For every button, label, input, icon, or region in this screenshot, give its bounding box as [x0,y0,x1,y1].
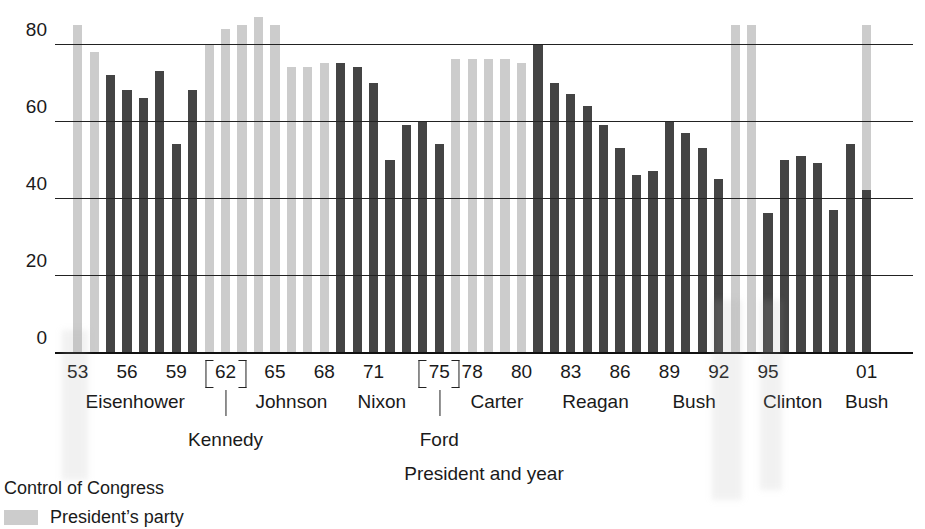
data-bar [599,125,608,352]
x-axis-tick-68: 68 [314,362,335,382]
legend-item-presidents-party: President’s party [4,507,404,527]
data-bar [353,67,362,352]
x-axis-tick-80: 80 [511,362,532,382]
data-bar [320,63,329,352]
data-bar [468,59,477,352]
president-label-nixon: Nixon [357,392,406,412]
plot-area [55,0,913,354]
data-bar [632,175,641,352]
y-axis-tick-0: 0 [36,328,47,347]
data-bar [566,94,575,352]
y-axis-tick-60: 60 [26,97,47,116]
data-bar [188,90,197,352]
chart-figure: 806040200 President and year 53565962656… [0,0,925,529]
data-bar [648,171,657,352]
y-axis-tick-20: 20 [26,251,47,270]
data-bar [763,213,772,352]
data-bar [533,44,542,352]
data-bar [385,160,394,353]
data-bar [73,25,82,352]
legend-swatch-icon [4,510,38,525]
legend-item-label: President’s party [50,507,184,527]
brace-right [238,360,246,388]
y-axis-tick-80: 80 [26,20,47,39]
data-bar [237,25,246,352]
data-bar [418,121,427,352]
data-bar [155,71,164,352]
data-bar [484,59,493,352]
brace-left [205,360,213,388]
x-axis-tick-53: 53 [67,362,88,382]
x-axis-tick-56: 56 [116,362,137,382]
x-axis-tick-95: 95 [757,362,778,382]
data-bar [106,75,115,352]
data-bar [500,59,509,352]
y-axis-tick-40: 40 [26,174,47,193]
x-axis-tick-92: 92 [708,362,729,382]
x-axis-tick-75: 75 [429,362,450,382]
data-bar [221,29,230,352]
data-bar [402,125,411,352]
x-axis-tick-83: 83 [560,362,581,382]
data-bar [796,156,805,352]
data-bar [451,59,460,352]
brace-right [452,360,460,388]
data-bar [90,52,99,352]
president-label-eisenhower: Eisenhower [86,392,185,412]
x-axis-tick-89: 89 [659,362,680,382]
y-axis: 806040200 [0,0,55,354]
data-bar [698,148,707,352]
bar-group [55,0,913,354]
data-bar [714,179,723,352]
data-bar [665,121,674,352]
data-bar [550,83,559,353]
president-label-carter: Carter [470,392,523,412]
data-bar [681,133,690,352]
president-label-kennedy: Kennedy [188,430,263,450]
x-axis-tick-65: 65 [264,362,285,382]
data-bar [862,190,871,352]
president-label-reagan: Reagan [562,392,629,412]
data-bar [731,25,740,352]
brace-stem [439,390,440,416]
president-label-bush: Bush [845,392,888,412]
president-label-johnson: Johnson [255,392,327,412]
data-bar [829,210,838,352]
data-bar [435,144,444,352]
x-axis-tick-78: 78 [462,362,483,382]
data-bar [747,25,756,352]
data-bar [270,25,279,352]
legend-title: Control of Congress [4,477,404,499]
data-bar [254,17,263,352]
x-axis-tick-01: 01 [856,362,877,382]
data-bar [846,144,855,352]
x-axis-tick-59: 59 [166,362,187,382]
data-bar [303,67,312,352]
x-axis-tick-71: 71 [363,362,384,382]
x-axis-tick-86: 86 [610,362,631,382]
data-bar [139,98,148,352]
president-label-ford: Ford [420,430,459,450]
data-bar [517,63,526,352]
x-axis-tick-62: 62 [215,362,236,382]
legend: Control of Congress President’s party [4,477,404,527]
data-bar [813,163,822,352]
data-bar [122,90,131,352]
data-bar [615,148,624,352]
data-bar [369,83,378,353]
brace-stem [226,390,227,416]
data-bar [172,144,181,352]
data-bar [583,106,592,352]
president-label-bush: Bush [672,392,715,412]
brace-left [419,360,427,388]
data-bar [287,67,296,352]
president-label-clinton: Clinton [763,392,822,412]
data-bar [205,44,214,352]
data-bar [780,160,789,353]
data-bar [336,63,345,352]
